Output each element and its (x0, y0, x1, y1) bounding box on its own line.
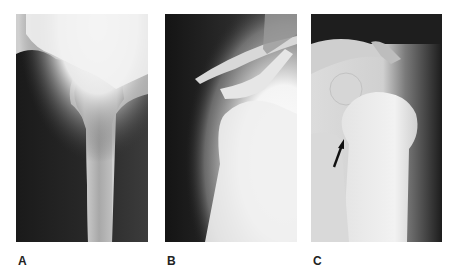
xray-image-c (311, 14, 442, 242)
xray-image-a (16, 14, 148, 242)
xray-image-b (165, 14, 297, 242)
radiograph-panel-a (16, 14, 148, 242)
panel-label-a: A (18, 254, 27, 268)
radiograph-panel-b (165, 14, 297, 242)
panel-label-b: B (167, 254, 176, 268)
panel-label-c: C (313, 254, 322, 268)
radiograph-panel-c (311, 14, 442, 242)
